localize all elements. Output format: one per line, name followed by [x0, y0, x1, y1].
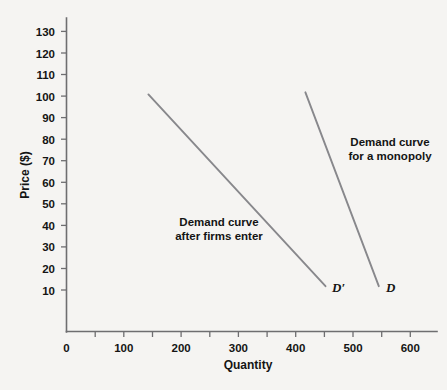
- annotation-after-entry: Demand curve after firms enter: [175, 216, 263, 242]
- demand-curve-after-entry: [148, 94, 325, 286]
- y-tick-label-10: 10: [42, 285, 55, 297]
- x-axis-title: Quantity: [224, 358, 273, 372]
- x-tick-label-600: 600: [401, 342, 420, 354]
- x-tick-label-400: 400: [286, 342, 305, 354]
- x-tick-marks: [95, 332, 410, 338]
- y-tick-label-70: 70: [42, 155, 55, 167]
- y-tick-label-90: 90: [42, 112, 55, 124]
- y-tick-label-20: 20: [42, 263, 55, 275]
- x-tick-label-100: 100: [114, 342, 133, 354]
- y-tick-label-100: 100: [36, 91, 55, 103]
- y-tick-label-40: 40: [42, 220, 55, 232]
- y-tick-label-60: 60: [42, 177, 55, 189]
- y-tick-label-130: 130: [36, 26, 55, 38]
- chart-container: 130 120 110 100 90 80 70 60 50 40 30 20 …: [0, 0, 447, 390]
- y-tick-label-80: 80: [42, 134, 55, 146]
- annotation-monopoly-line1: Demand curve: [350, 136, 429, 148]
- x-tick-label-500: 500: [343, 342, 362, 354]
- curves-group: [148, 92, 378, 286]
- y-tick-label-30: 30: [42, 241, 55, 253]
- annotation-monopoly-line2: for a monopoly: [348, 150, 432, 162]
- x-axis-group: 0 100 200 300 400 500 600 Quantity: [63, 332, 437, 373]
- y-tick-label-110: 110: [36, 69, 55, 81]
- x-tick-label-200: 200: [172, 342, 191, 354]
- x-tick-label-300: 300: [229, 342, 248, 354]
- y-axis-group: 130 120 110 100 90 80 70 60 50 40 30 20 …: [18, 18, 67, 332]
- demand-curve-chart: 130 120 110 100 90 80 70 60 50 40 30 20 …: [0, 0, 447, 390]
- curve-labels-group: D′ D: [331, 280, 396, 295]
- y-axis-title: Price ($): [18, 151, 32, 198]
- y-tick-label-50: 50: [42, 198, 55, 210]
- demand-curve-monopoly: [305, 92, 378, 286]
- y-tick-marks: [61, 31, 67, 290]
- curve-label-d-prime: D′: [331, 280, 345, 295]
- annotation-monopoly: Demand curve for a monopoly: [348, 136, 432, 162]
- annotation-after-entry-line1: Demand curve: [179, 216, 258, 228]
- y-tick-label-120: 120: [36, 48, 55, 60]
- annotation-after-entry-line2: after firms enter: [175, 230, 263, 242]
- x-tick-label-0: 0: [63, 342, 69, 354]
- curve-label-d: D: [385, 280, 396, 295]
